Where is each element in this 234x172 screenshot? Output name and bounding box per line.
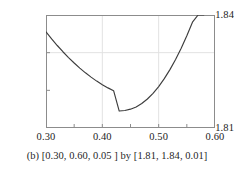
x-axis-tick-label-1: 0.40 (82, 131, 122, 142)
x-axis-tick-label-0: 0.30 (26, 131, 66, 142)
figure-panel-b: 1.84 1.81 0.30 0.40 0.50 0.60 (b) [0.30,… (0, 0, 234, 172)
plot-area (46, 15, 215, 128)
data-curve (46, 15, 204, 111)
gridlines (46, 15, 215, 128)
plot-svg (46, 15, 215, 128)
axis-ticks (46, 53, 215, 128)
figure-caption: (b) [0.30, 0.60, 0.05 ] by [1.81, 1.84, … (0, 150, 234, 162)
x-axis-tick-label-2: 0.50 (139, 131, 179, 142)
axis-frame (47, 16, 215, 128)
x-axis-tick-label-3: 0.60 (195, 131, 234, 142)
